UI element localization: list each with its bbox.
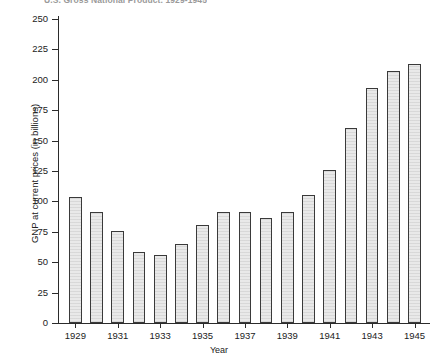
bar-1936 [217, 212, 230, 323]
bar-1932 [133, 252, 146, 323]
x-axis-tick-label: 1943 [362, 331, 383, 341]
x-axis-tick-mark [75, 324, 76, 328]
bar-1937 [239, 212, 252, 323]
y-axis-tick-mark [52, 110, 58, 111]
y-axis-tick-label: 0 [43, 318, 48, 328]
bar-1943 [366, 88, 379, 323]
bar-1934 [175, 244, 188, 323]
bar-1931 [111, 231, 124, 323]
y-axis-title: GNP at current prices (in billions) [29, 54, 40, 294]
x-axis-tick-label: 1945 [404, 331, 425, 341]
x-axis-tick-mark [372, 324, 373, 328]
bar-1939 [281, 212, 294, 323]
y-axis-tick-mark [52, 323, 58, 324]
x-axis-tick-mark [415, 324, 416, 328]
x-axis-tick-label: 1941 [319, 331, 340, 341]
x-axis-tick-label: 1937 [234, 331, 255, 341]
bar-1942 [345, 128, 358, 323]
y-axis-tick-mark [52, 80, 58, 81]
x-axis-tick-mark [287, 324, 288, 328]
y-axis-tick-label: 250 [32, 14, 48, 24]
y-axis-tick-label: 225 [32, 44, 48, 54]
y-axis-tick-mark [52, 232, 58, 233]
bar-1941 [323, 170, 336, 323]
y-axis-line [58, 16, 59, 324]
bar-1944 [387, 71, 400, 323]
x-axis-tick-label: 1931 [107, 331, 128, 341]
x-axis-tick-label: 1935 [192, 331, 213, 341]
y-axis-tick-mark [52, 201, 58, 202]
y-axis-tick-mark [52, 171, 58, 172]
x-axis-tick-mark [330, 324, 331, 328]
x-axis-tick-mark [203, 324, 204, 328]
x-axis-tick-label: 1933 [150, 331, 171, 341]
bar-1940 [302, 195, 315, 323]
bar-1930 [90, 212, 103, 323]
bar-1929 [69, 197, 82, 323]
x-axis-tick-mark [160, 324, 161, 328]
bar-chart-plot-area: 0255075100125150175200225250 19291931193… [0, 0, 438, 358]
bar-1935 [196, 225, 209, 323]
y-axis-tick-mark [52, 141, 58, 142]
x-axis-tick-mark [245, 324, 246, 328]
y-axis-tick-mark [52, 262, 58, 263]
bar-1933 [154, 255, 167, 323]
y-axis-tick-mark [52, 19, 58, 20]
y-axis-tick-mark [52, 293, 58, 294]
x-axis-tick-mark [118, 324, 119, 328]
bar-1938 [260, 218, 273, 323]
y-axis-tick-mark [52, 49, 58, 50]
bar-1945 [408, 64, 421, 323]
x-axis-title: Year [0, 345, 438, 355]
x-axis-tick-label: 1939 [277, 331, 298, 341]
x-axis-tick-label: 1929 [65, 331, 86, 341]
